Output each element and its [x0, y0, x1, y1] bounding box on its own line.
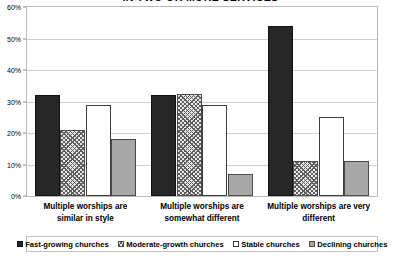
- bar: [35, 95, 60, 196]
- y-tick-label: 20%: [7, 130, 21, 137]
- y-tick-label: 40%: [7, 67, 21, 74]
- category-label-line: somewhat different: [144, 213, 261, 225]
- category-label: Multiple worships aresimilar in style: [27, 201, 144, 224]
- legend-swatch-icon: [17, 241, 23, 247]
- bar-group: [144, 7, 261, 196]
- bar-group: [260, 7, 377, 196]
- y-tick-mark: [23, 164, 26, 165]
- bar: [151, 95, 176, 196]
- y-tick-mark: [23, 196, 26, 197]
- legend-label: Declining churches: [317, 240, 387, 249]
- y-tick-label: 60%: [7, 4, 21, 11]
- chart-legend: Fast-growing churchesModerate-growth chu…: [26, 236, 378, 252]
- bar: [228, 174, 253, 196]
- bar: [86, 105, 111, 196]
- legend-item[interactable]: Fast-growing churches: [17, 240, 109, 249]
- legend-swatch-icon: [309, 241, 315, 247]
- bar: [60, 130, 85, 196]
- y-axis: 0%10%20%30%40%50%60%: [0, 6, 26, 197]
- bar: [293, 161, 318, 196]
- category-label-line: Multiple worships are: [27, 201, 144, 213]
- bar: [177, 94, 202, 196]
- chart-title: IN TWO OR MORE SERVICES: [0, 0, 401, 5]
- legend-label: Moderate-growth churches: [126, 240, 223, 249]
- bar: [111, 139, 136, 196]
- y-tick-mark: [23, 101, 26, 102]
- legend-item[interactable]: Declining churches: [309, 240, 388, 249]
- y-tick-label: 10%: [7, 161, 21, 168]
- y-tick-label: 0%: [11, 193, 21, 200]
- bar: [319, 117, 344, 196]
- y-tick-label: 30%: [7, 98, 21, 105]
- category-label-line: different: [260, 213, 377, 225]
- category-label: Multiple worships aresomewhat different: [144, 201, 261, 224]
- legend-item[interactable]: Moderate-growth churches: [118, 240, 224, 249]
- category-label-line: Multiple worships are: [144, 201, 261, 213]
- legend-item[interactable]: Stable churches: [233, 240, 300, 249]
- legend-swatch-icon: [118, 241, 124, 247]
- bar: [344, 161, 369, 196]
- bar: [268, 26, 293, 196]
- x-axis-category-labels: Multiple worships aresimilar in styleMul…: [27, 201, 377, 231]
- legend-label: Fast-growing churches: [25, 240, 109, 249]
- bar: [202, 105, 227, 196]
- bar-group: [27, 7, 144, 196]
- y-tick-label: 50%: [7, 35, 21, 42]
- category-label: Multiple worships are verydifferent: [260, 201, 377, 224]
- y-tick-mark: [23, 70, 26, 71]
- y-tick-mark: [23, 38, 26, 39]
- y-tick-mark: [23, 133, 26, 134]
- category-label-line: similar in style: [27, 213, 144, 225]
- y-tick-mark: [23, 7, 26, 8]
- legend-label: Stable churches: [241, 240, 300, 249]
- legend-swatch-icon: [233, 241, 239, 247]
- bars-layer: [27, 7, 377, 196]
- category-label-line: Multiple worships are very: [260, 201, 377, 213]
